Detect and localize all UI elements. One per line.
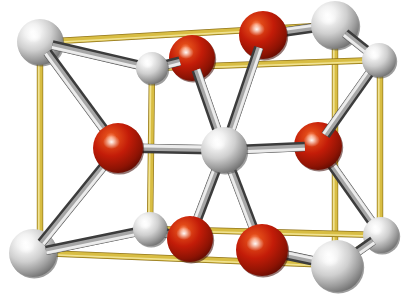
cell-edge-front_top_right-to-front_bottom_right [379,60,380,235]
unit-cell-canvas [0,0,406,306]
cell-edge-back_top_left-to-back_bottom_left [39,42,40,253]
crystal-structure-figure [0,0,406,306]
